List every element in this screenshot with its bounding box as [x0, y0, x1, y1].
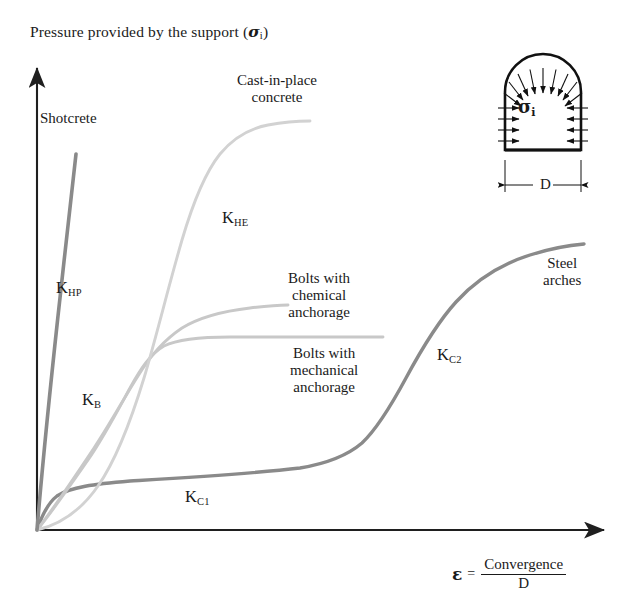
label-k-b: KB — [82, 390, 101, 410]
inset-sigma-label: σi — [518, 96, 535, 119]
x-axis-label: ε = Convergence D — [452, 557, 566, 592]
k-hp-subscript: HP — [68, 287, 82, 298]
curve-cast-in-place-concrete — [37, 121, 310, 530]
label-bolts-chem-line1: Bolts with — [288, 270, 350, 287]
label-k-he: KHE — [222, 208, 248, 228]
convergence-fraction: Convergence D — [481, 557, 566, 592]
label-shotcrete: Shotcrete — [40, 110, 97, 127]
curve-bolts-chemical-anchorage — [37, 305, 288, 530]
k-c2-letter: K — [437, 345, 449, 364]
support-reaction-chart: Pressure provided by the support (σi) — [0, 0, 634, 616]
label-bolts-chem-line3: anchorage — [288, 304, 350, 321]
k-hp-letter: K — [56, 278, 68, 297]
label-k-hp: KHP — [56, 278, 82, 298]
fraction-denominator: D — [518, 575, 529, 592]
label-bolts-mech-line2: mechanical — [290, 362, 358, 379]
label-bolts-chem-line2: chemical — [288, 287, 350, 304]
label-cast-in-place-line1: Cast-in-place — [237, 72, 317, 89]
label-cast-in-place-line2: concrete — [237, 89, 317, 106]
inset-sigma-symbol: σ — [518, 96, 531, 117]
k-b-subscript: B — [94, 399, 101, 410]
equals-sign: = — [467, 566, 475, 582]
label-cast-in-place-concrete: Cast-in-place concrete — [237, 72, 317, 106]
label-bolts-mech-line1: Bolts with — [290, 345, 358, 362]
label-bolts-mechanical-anchorage: Bolts with mechanical anchorage — [290, 345, 358, 395]
tunnel-inset-diagram — [498, 54, 588, 192]
fraction-numerator: Convergence — [481, 557, 566, 574]
label-steel-line1: Steel — [543, 255, 581, 272]
label-steel-arches: Steel arches — [543, 255, 581, 289]
epsilon-symbol: ε — [452, 564, 462, 584]
curve-shotcrete — [37, 154, 76, 530]
label-k-c2: KC2 — [437, 345, 462, 365]
inset-width-label: D — [540, 176, 551, 193]
tunnel-crown-arrows — [504, 68, 582, 106]
k-b-letter: K — [82, 390, 94, 409]
label-bolts-chemical-anchorage: Bolts with chemical anchorage — [288, 270, 350, 320]
k-c2-subscript: C2 — [449, 354, 462, 365]
k-he-letter: K — [222, 208, 234, 227]
tunnel-right-wall-arrows — [567, 108, 588, 141]
label-k-c1: KC1 — [185, 487, 210, 507]
k-c1-subscript: C1 — [197, 496, 210, 507]
inset-sigma-subscript: i — [531, 106, 535, 119]
label-steel-line2: arches — [543, 272, 581, 289]
k-he-subscript: HE — [234, 217, 248, 228]
k-c1-letter: K — [185, 487, 197, 506]
label-bolts-mech-line3: anchorage — [290, 379, 358, 396]
tunnel-left-wall-arrows — [498, 108, 519, 141]
